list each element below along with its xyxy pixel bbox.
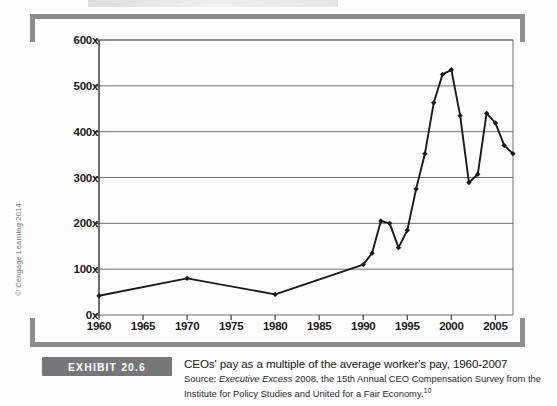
x-tick-label: 1975 bbox=[219, 320, 243, 332]
y-tick-label: 100x bbox=[74, 263, 98, 275]
exhibit-page: © Cengage Learning 2014 0x100x200x300x40… bbox=[0, 0, 557, 406]
data-point-marker bbox=[422, 151, 427, 156]
x-tick-label: 1995 bbox=[395, 320, 419, 332]
caption-source: Source: Executive Excess 2008, the 15th … bbox=[184, 373, 547, 400]
x-tick-label: 1970 bbox=[175, 320, 199, 332]
data-point-marker bbox=[413, 186, 418, 191]
data-point-marker bbox=[387, 221, 392, 226]
x-tick-label: 1960 bbox=[87, 320, 111, 332]
caption-text-block: CEOs' pay as a multiple of the average w… bbox=[184, 357, 547, 400]
x-tick-label: 1980 bbox=[263, 320, 287, 332]
y-tick-label: 400x bbox=[74, 126, 98, 138]
data-line-ceo-pay-multiple bbox=[99, 70, 513, 296]
source-title-italic: Executive Excess bbox=[219, 373, 292, 384]
x-axis-tick-labels: 1960196519701975198019851990199520002005 bbox=[0, 320, 557, 340]
y-tick-label: 600x bbox=[74, 34, 98, 46]
data-point-marker bbox=[431, 100, 436, 105]
data-point-marker bbox=[272, 292, 277, 297]
x-tick-label: 1990 bbox=[351, 320, 375, 332]
source-prefix: Source: bbox=[184, 373, 219, 384]
exhibit-caption: EXHIBIT 20.6 CEOs' pay as a multiple of … bbox=[42, 357, 547, 400]
source-footnote-marker: 10 bbox=[424, 387, 432, 394]
y-tick-label: 200x bbox=[74, 217, 98, 229]
x-tick-label: 1965 bbox=[131, 320, 155, 332]
y-tick-label: 500x bbox=[74, 80, 98, 92]
exhibit-number-badge: EXHIBIT 20.6 bbox=[42, 357, 172, 376]
data-point-marker bbox=[184, 276, 189, 281]
x-tick-label: 2000 bbox=[439, 320, 463, 332]
caption-title: CEOs' pay as a multiple of the average w… bbox=[184, 357, 547, 371]
x-tick-label: 2005 bbox=[483, 320, 507, 332]
x-tick-label: 1985 bbox=[307, 320, 331, 332]
y-axis-tick-labels: 0x100x200x300x400x500x600x bbox=[52, 0, 98, 348]
y-tick-label: 300x bbox=[74, 172, 98, 184]
data-point-marker bbox=[457, 113, 462, 118]
